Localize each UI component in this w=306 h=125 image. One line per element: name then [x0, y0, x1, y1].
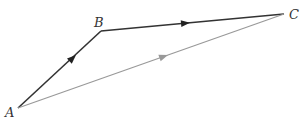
vector-diagram: A B C: [0, 0, 306, 125]
vector-ac: [18, 14, 284, 108]
point-label-b: B: [93, 15, 104, 30]
vector-bc: [101, 14, 284, 31]
arrow-ac-icon: [158, 52, 169, 62]
point-label-c: C: [289, 7, 299, 22]
arrow-bc-icon: [181, 19, 191, 27]
point-label-a: A: [4, 105, 14, 120]
vector-ab: [18, 31, 101, 108]
